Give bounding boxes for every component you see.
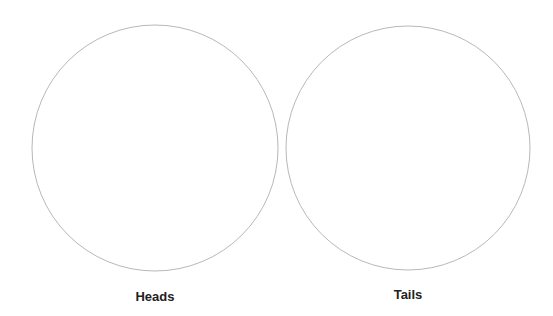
tails-label: Tails [348, 287, 468, 302]
coin-diagram [0, 0, 553, 316]
heads-circle [32, 25, 278, 271]
heads-label: Heads [95, 289, 215, 304]
tails-circle [286, 26, 530, 270]
